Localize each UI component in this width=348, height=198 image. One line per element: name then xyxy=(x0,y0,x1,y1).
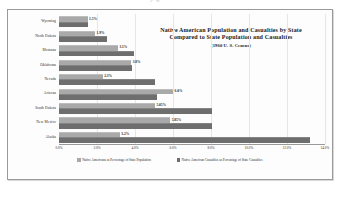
chart-frame: Native American Population and Casualtie… xyxy=(7,9,333,180)
chart-row: Montana3.1% xyxy=(59,43,325,57)
category-label: Montana xyxy=(43,43,56,57)
bar-casualties xyxy=(59,22,88,28)
legend-swatch-casualties-icon xyxy=(177,158,180,161)
x-axis-line xyxy=(59,144,325,145)
x-axis-tick-label: 6.0% xyxy=(169,146,176,150)
chart-row: South Dakota5.05% xyxy=(59,101,325,115)
bar-casualties xyxy=(59,123,212,129)
legend-label-casualties: Native American Casualties as Percentage… xyxy=(182,158,263,162)
bar-casualties xyxy=(59,36,107,42)
bar-value-label: 5.85% xyxy=(172,118,182,122)
bar-value-label: 2.3% xyxy=(104,74,112,78)
category-label: Alaska xyxy=(45,130,56,144)
category-label: Wyoming xyxy=(41,14,56,28)
bar-casualties xyxy=(59,51,134,57)
top-margin-strip: y g xyxy=(0,0,348,9)
category-label: Nevada xyxy=(44,72,56,86)
x-axis-tick-label: 4.0% xyxy=(131,146,138,150)
bar-value-label: 1.5% xyxy=(89,17,97,21)
gridline xyxy=(325,14,326,144)
bar-value-label: 5.05% xyxy=(156,103,166,107)
chart-legend: Native Americans as Percentage of State … xyxy=(8,158,332,162)
x-axis-tick-label: 0.0% xyxy=(55,146,62,150)
x-axis-tick-label: 10.0% xyxy=(245,146,254,150)
x-axis-tick-label: 14.0% xyxy=(321,146,330,150)
bar-casualties xyxy=(59,79,155,85)
bar-value-label: 3.8% xyxy=(133,60,141,64)
bar-casualties xyxy=(59,108,212,114)
bar-value-label: 3.2% xyxy=(121,132,129,136)
bar-casualties xyxy=(59,137,310,143)
bar-value-label: 6.0% xyxy=(175,89,183,93)
chart-row: New Mexico5.85% xyxy=(59,115,325,129)
chart-row: Nevada2.3% xyxy=(59,72,325,86)
category-label: South Dakota xyxy=(35,101,56,115)
category-label: Oklahoma xyxy=(40,57,56,71)
legend-item-casualties: Native American Casualties as Percentage… xyxy=(177,158,263,162)
bar-casualties xyxy=(59,94,157,100)
category-label: Arizona xyxy=(44,86,56,100)
chart-row: Alaska3.2% xyxy=(59,130,325,144)
chart-row: Wyoming1.5% xyxy=(59,14,325,28)
x-axis-tick-label: 12.0% xyxy=(283,146,292,150)
legend-swatch-population-icon xyxy=(77,158,80,161)
legend-item-population: Native Americans as Percentage of State … xyxy=(77,158,150,162)
bar-value-label: 3.1% xyxy=(119,45,127,49)
category-label: New Mexico xyxy=(36,115,56,129)
cropped-text-remnant: y g xyxy=(150,0,160,3)
bar-casualties xyxy=(59,65,132,71)
chart-row: North Dakota1.9% xyxy=(59,28,325,42)
plot-area: Wyoming1.5%North Dakota1.9%Montana3.1%Ok… xyxy=(59,14,325,144)
legend-label-population: Native Americans as Percentage of State … xyxy=(82,158,151,162)
x-axis-tick-label: 2.0% xyxy=(93,146,100,150)
category-label: North Dakota xyxy=(35,28,56,42)
chart-row: Arizona6.0% xyxy=(59,86,325,100)
bar-value-label: 1.9% xyxy=(97,31,105,35)
x-axis-tick-label: 8.0% xyxy=(207,146,214,150)
chart-row: Oklahoma3.8% xyxy=(59,57,325,71)
